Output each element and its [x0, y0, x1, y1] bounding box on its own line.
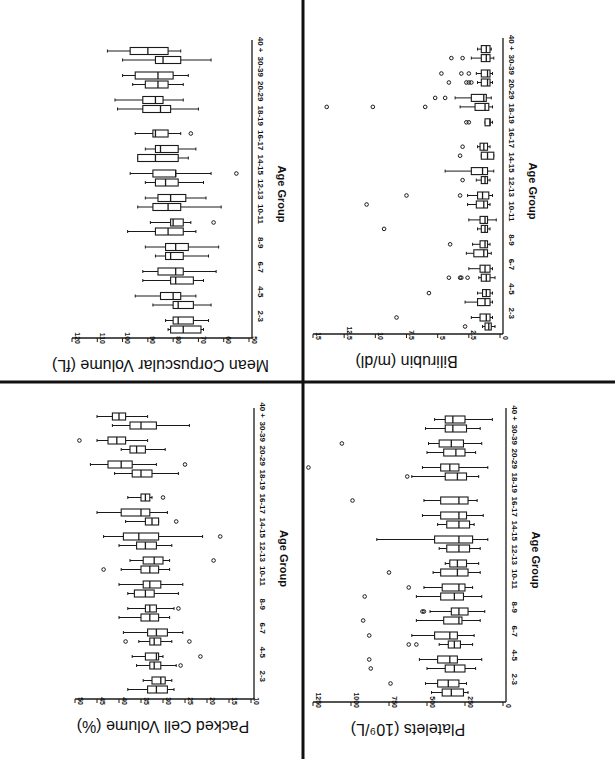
box-platelets-10-11-group-B	[407, 584, 473, 591]
value-tick-label: 0	[505, 704, 512, 708]
box-pcv-4-5-group-A	[137, 662, 183, 669]
box-platelets-40 +-group-A	[425, 425, 480, 432]
outlier-point	[161, 496, 165, 500]
value-tick-label: 45	[99, 697, 106, 705]
category-tick-label: 4-5	[258, 646, 267, 658]
box-pcv-2-3-group-B	[143, 677, 172, 684]
outlier-point	[427, 291, 431, 295]
box-bilirubin-14-15-group-A	[461, 177, 490, 184]
outlier-point	[307, 466, 311, 470]
value-tick-label: 50	[251, 336, 258, 344]
box-mcv-20-29-group-B	[115, 97, 183, 104]
value-tick-label: 15	[231, 697, 238, 705]
box-pcv-16-17-group-A	[126, 518, 178, 525]
box-mcv-8-9-group-A	[155, 253, 208, 260]
box-bilirubin-12-13-group-B	[405, 192, 493, 199]
box-pcv-10-11-group-B	[119, 581, 183, 588]
category-tick-label: 6-7	[258, 622, 267, 634]
box-platelets-4-5-group-A	[369, 665, 476, 672]
outlier-point	[212, 559, 216, 563]
box-pcv-8-9-group-A	[119, 614, 170, 621]
box-platelets-20-29-group-A	[405, 473, 478, 480]
outlier-point	[395, 316, 399, 320]
box-mcv-20-29-group-A	[118, 106, 199, 113]
category-tick-label: 2-3	[510, 673, 519, 685]
box-platelets-30-39-group-B	[340, 440, 482, 447]
value-tick-label: 70	[200, 336, 207, 344]
category-tick-label: 8-9	[258, 598, 267, 610]
value-axis-title: Platelets (10⁹/L)	[351, 721, 465, 738]
category-tick-label: 18-19	[256, 106, 265, 127]
category-tick-label: 40 +	[507, 35, 516, 51]
outlier-point	[448, 243, 452, 247]
category-tick-label: 12-13	[510, 545, 519, 566]
box-mcv-6-7-group-B	[143, 268, 216, 275]
box-pcv-40 +-group-B	[97, 413, 148, 420]
outlier-point	[325, 105, 329, 109]
box-platelets-12-13-group-B	[445, 560, 478, 567]
value-tick-label: 40	[121, 697, 128, 705]
box-mcv-30-39-group-B	[123, 72, 189, 79]
value-tick-label: 20	[209, 697, 216, 705]
box-mcv-30-39-group-A	[133, 81, 184, 88]
outlier-point	[440, 72, 444, 76]
category-tick-label: 18-19	[258, 470, 267, 491]
outlier-point	[447, 276, 451, 280]
category-tick-label: 8-9	[256, 237, 265, 249]
outlier-point	[371, 105, 375, 109]
box-pcv-40 +-group-A	[112, 422, 189, 429]
category-tick-label: 20-29	[510, 449, 519, 470]
outlier-point	[363, 595, 367, 599]
box-bilirubin-20-29-group-A	[325, 103, 493, 110]
outlier-point	[361, 619, 365, 623]
box-bilirubin-30-39-group-A	[447, 79, 492, 86]
box-bilirubin-10-11-group-B	[469, 216, 496, 223]
outlier-point	[389, 682, 393, 686]
box-bilirubin-12-13-group-A	[365, 201, 490, 208]
box-pcv-14-15-group-B	[104, 533, 222, 540]
box-mcv-14-15-group-A	[145, 179, 203, 186]
box-bilirubin-16-17-group-B	[461, 143, 490, 150]
box-pcv-16-17-group-B	[97, 509, 167, 516]
category-tick-label: 16-17	[507, 128, 516, 149]
value-tick-label: 7.5	[408, 330, 415, 340]
category-tick-label: 10-11	[258, 566, 267, 587]
category-axis-title: Age Group	[278, 530, 290, 587]
box-pcv-10-11-group-A	[128, 590, 179, 597]
box-bilirubin-20-29-group-B	[433, 94, 491, 101]
outlier-point	[415, 643, 419, 647]
value-axis-title: Bilirubin (m/dl)	[355, 353, 457, 370]
outlier-point	[174, 520, 178, 524]
outlier-point	[367, 634, 371, 638]
box-mcv-14-15-group-B	[130, 170, 238, 177]
outlier-point	[78, 439, 82, 443]
category-tick-label: 30-39	[256, 57, 265, 78]
value-tick-label: 50	[77, 697, 84, 705]
box-bilirubin-18-19-group-B	[465, 119, 493, 126]
figure-four-panel-boxplots: 50607080901001101202-34-56-78-910-1112-1…	[0, 0, 615, 759]
value-tick-label: 90	[149, 336, 156, 344]
box-bilirubin-6-7-group-B	[469, 265, 493, 272]
box-platelets-2-3-group-B	[389, 680, 467, 687]
category-tick-label: 30-39	[258, 422, 267, 443]
box-bilirubin-2-3-group-B	[395, 314, 493, 321]
category-tick-label: 6-7	[507, 259, 516, 271]
value-tick-label: 100	[124, 332, 131, 344]
category-tick-label: 30-39	[510, 425, 519, 446]
category-tick-label: 16-17	[256, 130, 265, 151]
value-tick-label: 5	[439, 336, 446, 340]
box-bilirubin-8-9-group-A	[466, 250, 491, 257]
outlier-point	[199, 655, 203, 659]
outlier-point	[235, 172, 239, 176]
category-tick-label: 12-13	[258, 542, 267, 563]
category-tick-label: 14-15	[258, 518, 267, 539]
box-platelets-20-29-group-B	[307, 464, 488, 471]
outlier-point	[351, 499, 355, 503]
box-platelets-2-3-group-A	[432, 689, 468, 696]
box-platelets-6-7-group-B	[367, 632, 474, 639]
outlier-point	[465, 121, 469, 125]
category-tick-label: 10-11	[507, 201, 516, 222]
box-mcv-40 +-group-B	[107, 48, 180, 55]
box-pcv-4-5-group-B	[132, 653, 202, 660]
box-platelets-8-9-group-B	[421, 608, 485, 615]
